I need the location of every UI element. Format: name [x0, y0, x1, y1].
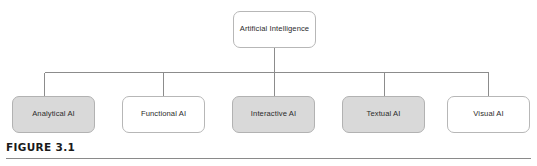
node-interactive-ai: Interactive AI: [232, 96, 315, 133]
figure-3-1: Artificial Intelligence Analytical AI Fu…: [0, 0, 537, 166]
node-leaf-label-4: Visual AI: [470, 110, 506, 119]
node-root-label: Artificial Intelligence: [237, 25, 312, 34]
node-leaf-label-0: Analytical AI: [29, 110, 78, 119]
node-textual-ai: Textual AI: [342, 96, 425, 133]
node-artificial-intelligence: Artificial Intelligence: [233, 11, 316, 48]
node-visual-ai: Visual AI: [447, 96, 530, 133]
node-leaf-label-2: Interactive AI: [248, 110, 299, 119]
caption-divider: [6, 158, 531, 159]
node-leaf-label-1: Functional AI: [138, 110, 189, 119]
figure-caption-block: FIGURE 3.1: [0, 140, 537, 166]
node-functional-ai: Functional AI: [122, 96, 205, 133]
node-leaf-label-3: Textual AI: [364, 110, 404, 119]
node-analytical-ai: Analytical AI: [12, 96, 95, 133]
org-chart-diagram: Artificial Intelligence Analytical AI Fu…: [0, 0, 537, 140]
figure-caption-label: FIGURE 3.1: [6, 141, 75, 153]
